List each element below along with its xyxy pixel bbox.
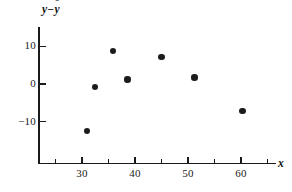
x-tick-minor — [267, 159, 268, 163]
x-tick-minor — [55, 159, 56, 163]
x-axis-label: x — [278, 158, 284, 170]
data-point — [110, 48, 116, 54]
x-tick — [187, 157, 188, 163]
x-tick — [134, 157, 135, 163]
data-point — [239, 108, 245, 114]
x-tick-minor — [214, 159, 215, 163]
y-tick — [40, 46, 46, 47]
x-tick-label: 60 — [226, 167, 256, 179]
x-axis-line — [38, 163, 276, 165]
y-tick — [40, 121, 46, 122]
x-tick — [81, 157, 82, 163]
y-axis-label: y−ˆy — [42, 4, 60, 16]
x-tick-minor — [108, 159, 109, 163]
x-tick-minor — [161, 159, 162, 163]
x-tick-label: 40 — [120, 167, 150, 179]
data-point — [124, 76, 130, 82]
y-tick — [40, 83, 46, 84]
y-axis-label-yhat: ˆy — [54, 4, 60, 16]
y-tick-label: 10 — [25, 39, 36, 51]
x-tick — [240, 157, 241, 163]
x-tick-label: 50 — [173, 167, 203, 179]
data-point — [84, 128, 90, 134]
y-tick-label: −10 — [18, 115, 36, 127]
y-axis-label-minus: − — [47, 3, 54, 15]
hat-accent-icon: ˆ — [54, 0, 60, 9]
y-axis-line — [38, 27, 40, 164]
data-point — [92, 84, 98, 90]
data-point — [191, 74, 197, 80]
y-tick-label: 0 — [30, 77, 36, 89]
residual-scatter-plot: y−ˆy x 100−10 30405060 — [0, 0, 292, 192]
x-tick-label: 30 — [67, 167, 97, 179]
data-point — [158, 54, 164, 60]
